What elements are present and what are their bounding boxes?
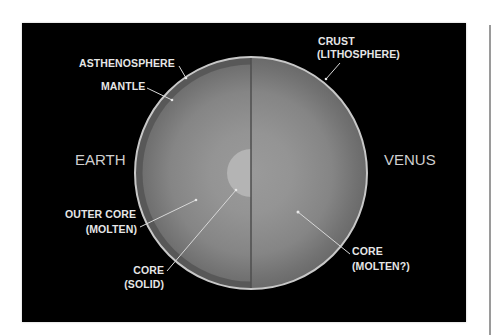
label-mantle: MANTLE (101, 79, 145, 93)
label-core-molten: CORE (352, 244, 383, 258)
leader-asthenosphere (179, 66, 186, 78)
leader-crust (326, 63, 340, 79)
label-core-molten-state: (MOLTEN?) (352, 259, 410, 273)
label-crust: CRUST (318, 34, 355, 48)
planet-name-earth: EARTH (75, 152, 126, 168)
label-outer-core-state: (MOLTEN) (86, 222, 137, 236)
label-core-solid-state: (SOLID) (124, 277, 164, 291)
label-asthenosphere: ASTHENOSPHERE (79, 56, 175, 70)
label-core-solid: CORE (133, 263, 164, 277)
label-lithosphere: (LITHOSPHERE) (317, 47, 400, 61)
label-outer-core: OUTER CORE (65, 207, 136, 221)
planet-name-venus: VENUS (384, 152, 436, 168)
